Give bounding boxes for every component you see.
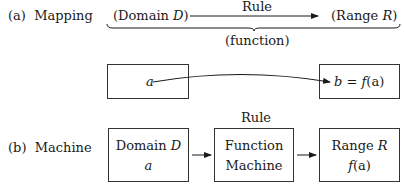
diagram-arrows: [0, 0, 404, 188]
mapping-arrow-icon: [153, 75, 330, 83]
underbrace-icon: [107, 24, 400, 31]
